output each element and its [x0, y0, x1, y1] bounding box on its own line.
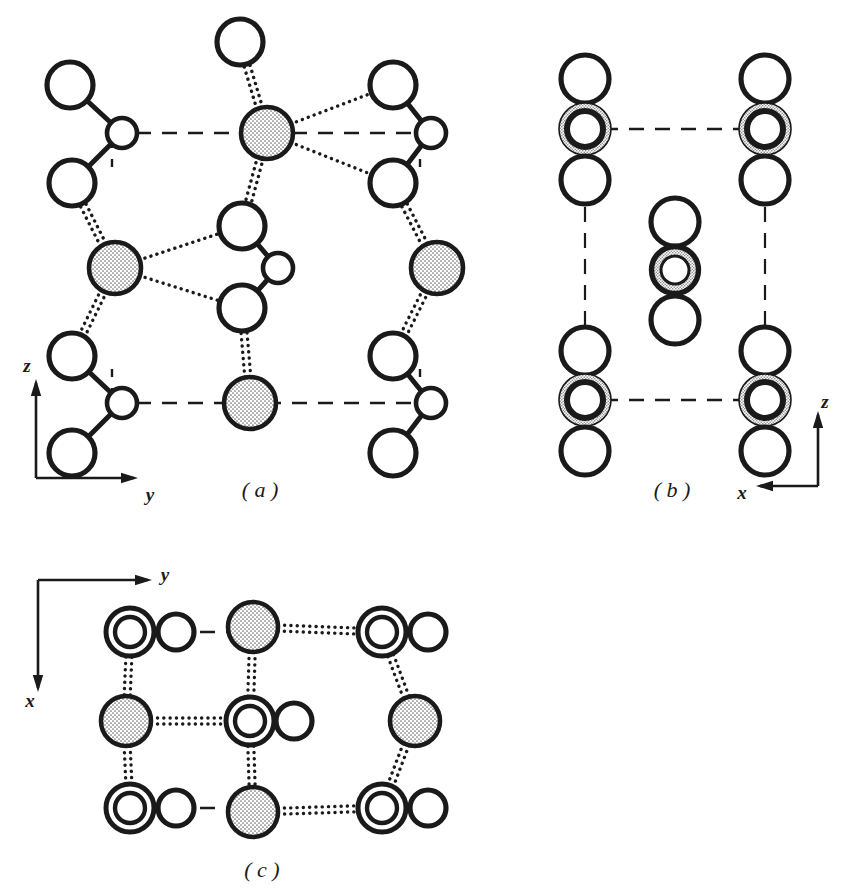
atom-small-open-circle: [416, 118, 446, 148]
axis-label-y: y: [159, 564, 170, 585]
panel-c-xy-projection: [101, 602, 446, 837]
atom-pair-open-inner-circle: [115, 617, 145, 647]
atom-large-open-circle: [741, 327, 789, 375]
atom-large-open-circle: [561, 55, 609, 103]
atom-pair-inner-core: [661, 256, 689, 284]
atom-large-open-circle: [741, 55, 789, 103]
panel-label-a: ( a ): [242, 477, 279, 502]
atom-pair-open-inner-circle: [235, 706, 265, 736]
atom-large-open-circle: [370, 333, 416, 379]
atom-pair-inner-ring: [747, 111, 783, 147]
atom-pair-open-inner-circle: [115, 793, 145, 823]
atom-pair-inner-ring: [747, 382, 783, 418]
atom-pair-open-inner-circle: [367, 793, 397, 823]
atom-pair-inner-ring: [567, 382, 603, 418]
atom-large-open-circle: [49, 430, 95, 476]
atom-large-open-circle: [49, 333, 95, 379]
atom-large-open-circle: [370, 430, 416, 476]
atom-stippled-filled-circle: [89, 242, 141, 294]
atom-small-open-circle: [107, 118, 137, 148]
atom-large-open-circle: [370, 160, 416, 206]
atom-large-open-circle: [561, 156, 609, 204]
crystal-structure-figure: zy( a )zx( b )yx( c ): [0, 0, 860, 891]
atom-stippled-filled-circle: [241, 107, 293, 159]
axis-label-z: z: [820, 391, 829, 412]
atom-medium-open-circle: [158, 790, 194, 826]
atom-stippled-filled-circle: [228, 787, 278, 837]
atom-medium-open-circle: [158, 614, 194, 650]
axis-label-x: x: [736, 482, 747, 503]
atom-stippled-filled-circle: [411, 242, 463, 294]
atom-large-open-circle: [217, 19, 263, 65]
atom-large-open-circle: [219, 285, 265, 331]
atom-medium-open-circle: [410, 614, 446, 650]
axis-label-x: x: [24, 690, 35, 711]
atom-medium-open-circle: [276, 703, 312, 739]
panel-label-b: ( b ): [654, 477, 691, 502]
axis-label-z: z: [22, 355, 31, 376]
atom-stippled-filled-circle: [390, 696, 440, 746]
atom-large-open-circle: [370, 62, 416, 108]
atom-small-open-circle: [416, 388, 446, 418]
atom-large-open-circle: [561, 427, 609, 475]
atom-stippled-filled-circle: [224, 377, 276, 429]
atom-large-open-circle: [47, 62, 93, 108]
atom-small-open-circle: [263, 253, 293, 283]
panel-label-c: ( c ): [244, 857, 279, 882]
atom-large-open-circle: [651, 296, 699, 344]
atom-stippled-filled-circle: [228, 602, 278, 652]
atom-stippled-filled-circle: [101, 696, 151, 746]
atom-pair-inner-ring: [567, 111, 603, 147]
atom-small-open-circle: [107, 388, 137, 418]
atom-large-open-circle: [219, 203, 265, 249]
atom-large-open-circle: [49, 160, 95, 206]
figure-canvas: zy( a )zx( b )yx( c ): [0, 0, 860, 891]
atom-large-open-circle: [741, 156, 789, 204]
axis-label-y: y: [144, 484, 155, 505]
atom-pair-open-inner-circle: [367, 617, 397, 647]
atom-large-open-circle: [561, 327, 609, 375]
atom-medium-open-circle: [410, 790, 446, 826]
atom-large-open-circle: [651, 198, 699, 246]
atom-large-open-circle: [741, 427, 789, 475]
